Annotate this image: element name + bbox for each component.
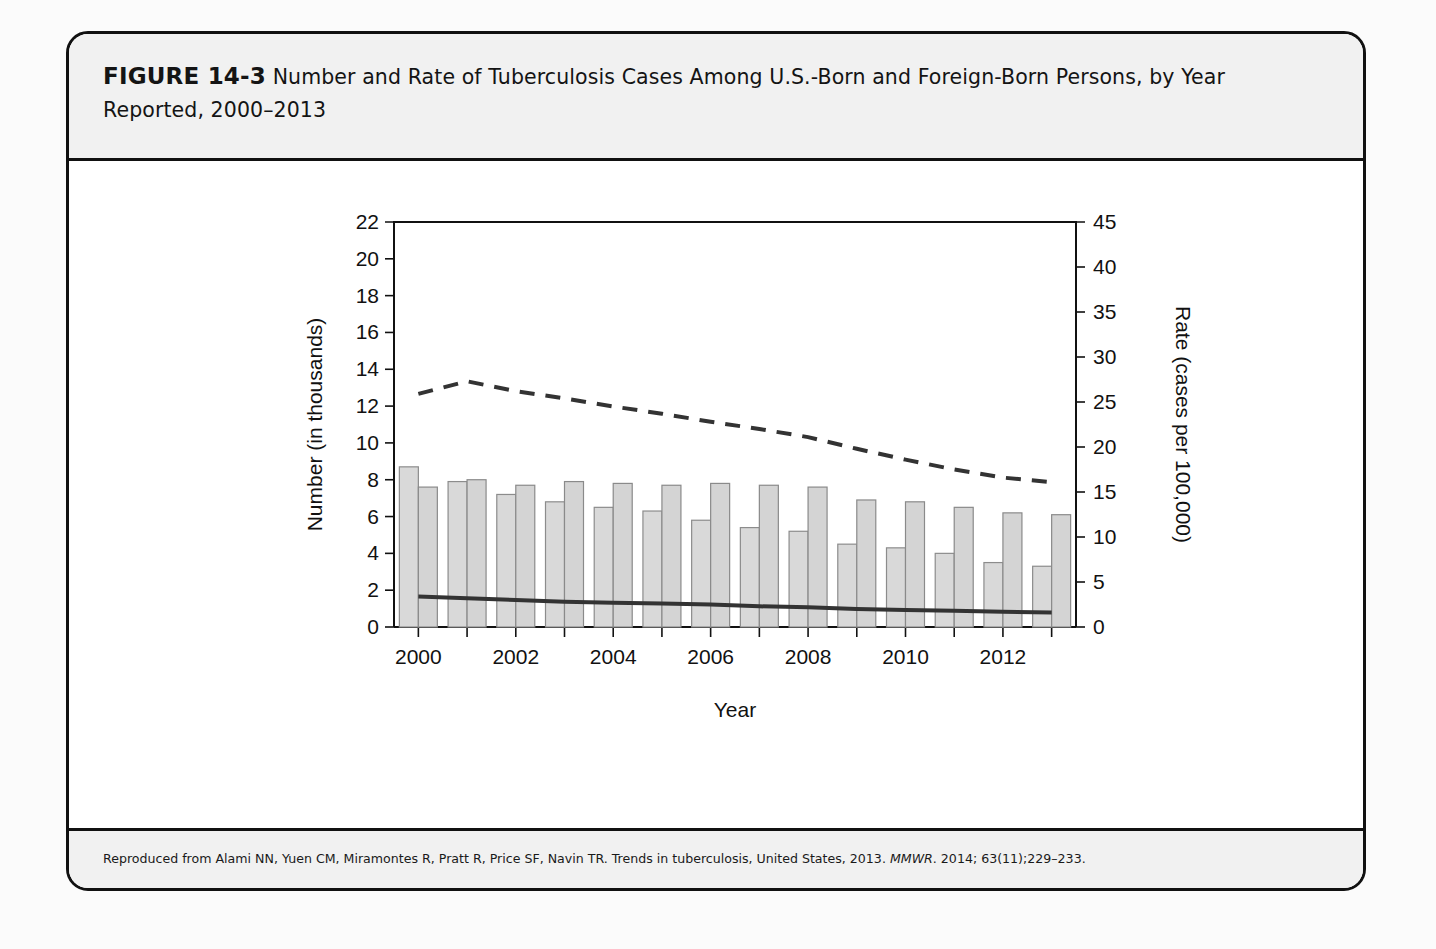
x-axis-tick-label: 2012 (980, 645, 1027, 668)
y2-axis-tick-label: 15 (1093, 480, 1116, 503)
y-axis-tick-label: 2 (367, 578, 379, 601)
y-axis-tick-label: 10 (356, 431, 379, 454)
y-axis-tick-label: 4 (367, 541, 379, 564)
figure-container: FIGURE 14-3 Number and Rate of Tuberculo… (66, 31, 1366, 891)
y2-axis-tick-label: 45 (1093, 210, 1116, 233)
x-axis-tick-label: 2010 (882, 645, 929, 668)
y2-axis-tick-label: 0 (1093, 615, 1105, 638)
figure-title-text: Number and Rate of Tuberculosis Cases Am… (266, 65, 1225, 89)
y2-axis-title: Rate (cases per 100,000) (1172, 306, 1195, 543)
x-axis-tick-label: 2004 (590, 645, 637, 668)
x-axis-tick-label: 2008 (785, 645, 832, 668)
chart-area: 0246810121416182022051015202530354045200… (69, 161, 1366, 834)
screenshot-page: FIGURE 14-3 Number and Rate of Tuberculo… (0, 0, 1436, 949)
bar-us-born (594, 507, 613, 627)
x-axis-title: Year (714, 698, 756, 721)
bar-us-born (643, 511, 662, 627)
bar-us-born (838, 544, 857, 627)
bar-us-born (546, 502, 565, 627)
y-axis-tick-label: 20 (356, 247, 379, 270)
y2-axis-tick-label: 20 (1093, 435, 1116, 458)
figure-citation: Reproduced from Alami NN, Yuen CM, Miram… (103, 851, 1329, 866)
bar-us-born (887, 548, 906, 627)
bar-us-born (399, 467, 418, 627)
figure-number: FIGURE 14-3 (103, 63, 266, 89)
x-axis-tick-label: 2006 (687, 645, 734, 668)
x-axis-tick-label: 2000 (395, 645, 442, 668)
bar-foreign-born (418, 487, 437, 627)
bar-foreign-born (467, 480, 486, 627)
figure-title-line-1: FIGURE 14-3 Number and Rate of Tuberculo… (103, 60, 1329, 94)
citation-prefix: Reproduced from Alami NN, Yuen CM, Miram… (103, 851, 890, 866)
bar-us-born (984, 563, 1003, 627)
figure-title-band: FIGURE 14-3 Number and Rate of Tuberculo… (69, 34, 1363, 161)
y2-axis-tick-label: 10 (1093, 525, 1116, 548)
y-axis-tick-label: 14 (356, 357, 380, 380)
y2-axis-tick-label: 40 (1093, 255, 1116, 278)
y-axis-tick-label: 18 (356, 284, 379, 307)
bar-foreign-born (613, 483, 632, 627)
y2-axis-tick-label: 35 (1093, 300, 1116, 323)
y-axis-title: Number (in thousands) (303, 318, 326, 532)
y-axis-tick-label: 12 (356, 394, 379, 417)
bar-us-born (497, 494, 516, 627)
bar-foreign-born (1052, 515, 1071, 627)
y-axis-tick-label: 22 (356, 210, 379, 233)
y-axis-tick-label: 8 (367, 468, 379, 491)
bar-us-born (448, 482, 467, 627)
figure-body: 0246810121416182022051015202530354045200… (69, 161, 1363, 834)
tb-cases-chart: 0246810121416182022051015202530354045200… (69, 161, 1366, 834)
bar-us-born (935, 553, 954, 627)
y-axis-tick-label: 6 (367, 505, 379, 528)
y-axis-tick-label: 16 (356, 320, 379, 343)
line-foreign-born-rate (418, 381, 1051, 482)
bar-us-born (1033, 566, 1052, 627)
citation-suffix: . 2014; 63(11);229–233. (933, 851, 1086, 866)
y2-axis-tick-label: 30 (1093, 345, 1116, 368)
y2-axis-tick-label: 5 (1093, 570, 1105, 593)
bar-us-born (740, 528, 759, 627)
citation-journal: MMWR (890, 851, 933, 866)
bar-us-born (789, 531, 808, 627)
figure-citation-band: Reproduced from Alami NN, Yuen CM, Miram… (69, 828, 1363, 888)
bar-foreign-born (565, 482, 584, 627)
y2-axis-tick-label: 25 (1093, 390, 1116, 413)
bar-foreign-born (516, 485, 535, 627)
figure-title-line-2: Reported, 2000–2013 (103, 94, 1329, 127)
y-axis-tick-label: 0 (367, 615, 379, 638)
bar-us-born (692, 520, 711, 627)
x-axis-tick-label: 2002 (492, 645, 539, 668)
